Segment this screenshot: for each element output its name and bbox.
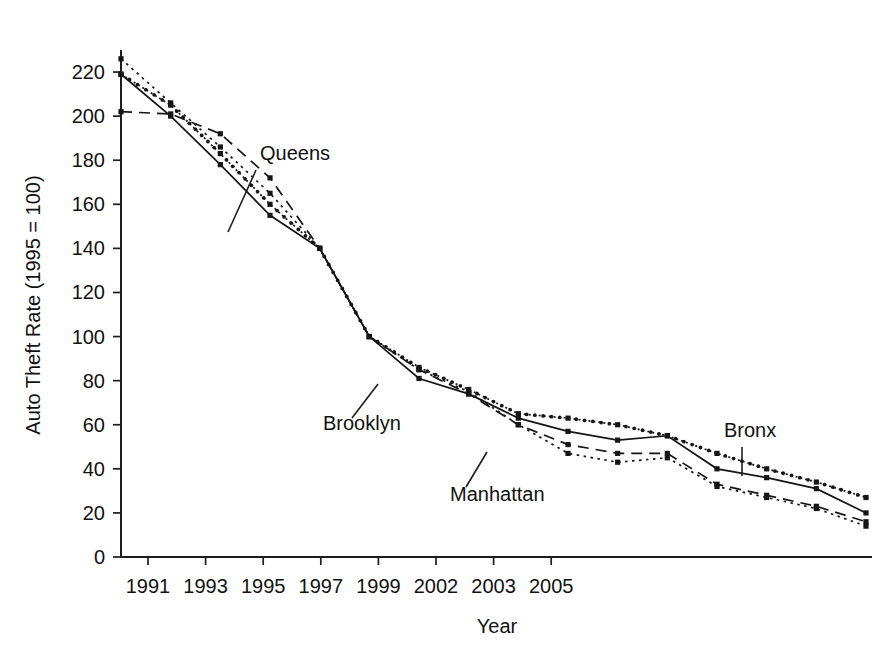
data-point: [714, 466, 719, 471]
data-point-minor: [256, 190, 260, 194]
data-point: [267, 175, 272, 180]
data-point: [665, 455, 670, 460]
data-point: [168, 111, 173, 116]
data-point-minor: [839, 488, 843, 492]
series-markers-manhattan: [118, 56, 868, 529]
data-point: [565, 442, 570, 447]
series-markers-brooklyn: [118, 72, 868, 516]
data-point-minor: [144, 88, 148, 92]
data-point-minor: [707, 449, 711, 453]
series-annotation-queens: Queens: [260, 142, 330, 164]
series-annotation-brooklyn: Brooklyn: [323, 412, 401, 434]
series-line-queens: [121, 112, 866, 522]
data-point-minor: [798, 476, 802, 480]
data-point: [615, 460, 620, 465]
data-point-minor: [690, 443, 694, 447]
data-point: [466, 389, 471, 394]
leader-line-manhattan: [466, 452, 487, 487]
data-point-minor: [699, 446, 703, 450]
data-point: [565, 451, 570, 456]
data-point-minor: [296, 228, 300, 232]
data-point-minor: [773, 469, 777, 473]
data-point: [863, 524, 868, 529]
y-tick-label: 120: [72, 281, 105, 303]
data-point-minor: [781, 471, 785, 475]
data-point: [615, 438, 620, 443]
x-tick-label: 1995: [241, 575, 286, 597]
leader-line-queens: [228, 170, 256, 232]
data-point: [218, 151, 223, 156]
data-point-minor: [583, 418, 587, 422]
x-tick-label: 1997: [299, 575, 344, 597]
x-axis-title: Year: [477, 615, 518, 637]
y-tick-label: 40: [83, 458, 105, 480]
series-annotation-manhattan: Manhattan: [450, 483, 545, 505]
data-point-minor: [434, 373, 438, 377]
y-tick-label: 180: [72, 149, 105, 171]
annotation-group: QueensBrooklynManhattanBronx: [228, 142, 776, 505]
data-point-minor: [723, 454, 727, 458]
data-point: [764, 466, 769, 471]
data-point-minor: [541, 414, 545, 418]
data-point-minor: [756, 464, 760, 468]
data-point: [118, 109, 123, 114]
data-point-minor: [591, 420, 595, 424]
data-point-minor: [194, 127, 198, 131]
data-point: [118, 72, 123, 77]
x-tick-label: 2002: [414, 575, 459, 597]
data-point-minor: [500, 404, 504, 408]
series-group: [118, 56, 868, 529]
x-tick-label: 1993: [183, 575, 228, 597]
data-point-minor: [212, 146, 216, 150]
data-point-minor: [574, 417, 578, 421]
data-point-minor: [475, 392, 479, 396]
data-point: [814, 506, 819, 511]
data-point-minor: [483, 396, 487, 400]
data-point-minor: [152, 93, 156, 97]
data-point-minor: [550, 415, 554, 419]
data-point-minor: [225, 158, 229, 162]
data-point-minor: [275, 209, 279, 213]
data-point: [218, 131, 223, 136]
data-point-minor: [599, 421, 603, 425]
series-markers-queens: [118, 109, 868, 524]
data-point: [218, 162, 223, 167]
data-point: [863, 510, 868, 515]
data-point-minor: [136, 83, 140, 87]
data-point: [565, 429, 570, 434]
data-point-minor: [748, 462, 752, 466]
data-point-minor: [200, 134, 204, 138]
series-annotation-bronx: Bronx: [724, 419, 776, 441]
data-point: [665, 433, 670, 438]
data-point-minor: [641, 428, 645, 432]
x-tick-label: 1999: [356, 575, 401, 597]
data-point-minor: [682, 440, 686, 444]
data-point: [714, 484, 719, 489]
data-point: [367, 334, 372, 339]
data-point-minor: [492, 400, 496, 404]
data-point-minor: [657, 432, 661, 436]
data-point-minor: [624, 425, 628, 429]
series-line-brooklyn: [121, 74, 866, 513]
data-point: [714, 451, 719, 456]
data-point-minor: [458, 384, 462, 388]
data-point-minor: [533, 413, 537, 417]
y-tick-label: 20: [83, 502, 105, 524]
data-point-minor: [823, 483, 827, 487]
data-point-minor: [848, 490, 852, 494]
data-point: [615, 422, 620, 427]
chart-svg: 020406080100120140160180200220 199119931…: [0, 0, 896, 655]
data-point-minor: [632, 427, 636, 431]
data-point-minor: [806, 478, 810, 482]
data-point: [516, 422, 521, 427]
data-point-minor: [237, 171, 241, 175]
data-point: [416, 367, 421, 372]
x-axis-ticks: 19911993199519971999200220032005: [126, 557, 574, 597]
y-tick-label: 0: [94, 546, 105, 568]
data-point: [267, 191, 272, 196]
data-point-minor: [187, 121, 191, 125]
y-tick-label: 100: [72, 326, 105, 348]
data-point-minor: [175, 109, 179, 113]
y-tick-label: 80: [83, 370, 105, 392]
data-point: [863, 495, 868, 500]
